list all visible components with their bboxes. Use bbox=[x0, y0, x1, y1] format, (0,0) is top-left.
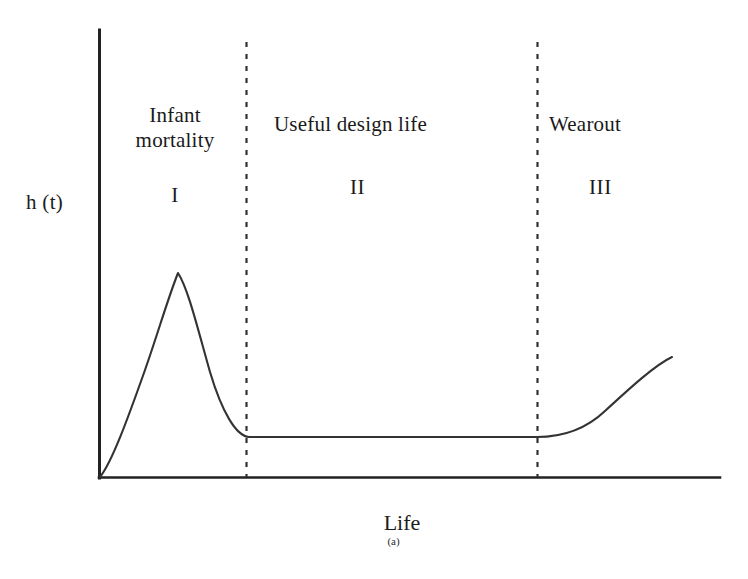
region-infant-mortality-numeral: I bbox=[108, 183, 242, 208]
region-useful-design-life-title: Useful design life bbox=[252, 112, 535, 137]
figure-caption: (a) bbox=[387, 535, 399, 547]
region-infant-mortality-title: Infant mortality bbox=[108, 103, 242, 153]
y-axis-label: h (t) bbox=[26, 190, 63, 215]
region-infant-mortality: Infant mortality I bbox=[108, 103, 242, 208]
region-wearout-numeral: III bbox=[545, 175, 725, 200]
hazard-rate-curve bbox=[100, 273, 672, 477]
figure-caption-wrapper: (a) bbox=[0, 522, 748, 561]
region-wearout-title: Wearout bbox=[545, 112, 725, 137]
region-useful-design-life: Useful design life II bbox=[252, 112, 535, 200]
bathtub-curve-figure: h (t) Infant mortality I Useful design l… bbox=[0, 0, 748, 579]
region-wearout: Wearout III bbox=[545, 112, 725, 200]
region-useful-design-life-numeral: II bbox=[252, 175, 535, 200]
